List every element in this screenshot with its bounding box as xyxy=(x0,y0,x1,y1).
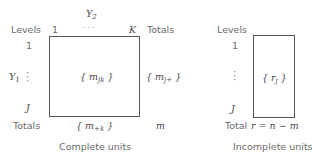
row-first-level: 1 xyxy=(26,40,32,51)
column-last-level: K xyxy=(129,24,136,35)
column-first-level: 1 xyxy=(52,24,58,35)
column-ellipsis: · · · xyxy=(83,23,94,34)
grand-total: m xyxy=(156,120,165,131)
incomplete-cell-counts: { rj } xyxy=(262,72,287,87)
incomplete-units-caption: Incomplete units xyxy=(233,141,312,152)
row-ellipsis: ··· xyxy=(26,71,29,83)
levels-label: Levels xyxy=(11,24,41,35)
incomplete-row-first-level: 1 xyxy=(232,40,238,51)
complete-units-caption: Complete units xyxy=(59,141,131,152)
incomplete-levels-label: Levels xyxy=(217,24,247,35)
incomplete-row-last-level: J xyxy=(231,103,235,114)
totals-row-label: Totals xyxy=(13,120,40,131)
totals-column-label: Totals xyxy=(147,24,174,35)
cell-counts: { mjk } xyxy=(80,71,114,86)
column-variable-label: Y2 xyxy=(86,8,97,23)
row-last-level: J xyxy=(26,102,30,113)
incomplete-row-ellipsis: ··· xyxy=(233,70,236,82)
column-totals: { m+k } xyxy=(76,120,113,135)
incomplete-total-label: Total xyxy=(225,120,247,131)
row-variable-label: Y1 xyxy=(9,71,20,86)
row-totals: { mj+ } xyxy=(146,71,181,86)
incomplete-total-expression: r = n − m xyxy=(251,120,299,131)
